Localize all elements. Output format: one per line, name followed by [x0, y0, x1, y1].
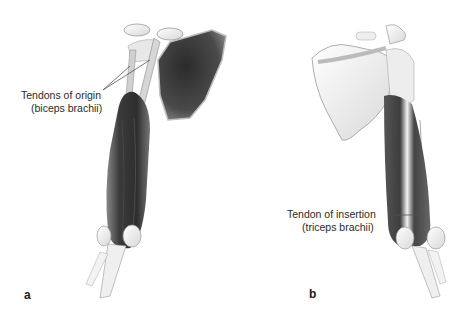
annotation-tendons-of-origin: Tendons of origin (biceps brachii): [21, 89, 102, 115]
scapula-bone: [312, 45, 394, 141]
triceps-muscle: [384, 95, 430, 246]
annotation-tendon-of-insertion: Tendon of insertion (triceps brachii): [287, 208, 376, 234]
annotation-line-1: Tendon of insertion: [287, 208, 376, 221]
annotation-line-2: (triceps brachii): [287, 221, 376, 234]
arm-illustrations: [0, 0, 472, 319]
panel-a-illustration: [86, 24, 226, 298]
annotation-line-1: Tendons of origin: [21, 89, 102, 102]
panel-letter-a: a: [24, 288, 31, 302]
anatomy-figure: Tendons of origin (biceps brachii) a Ten…: [0, 0, 472, 319]
annotation-line-2: (biceps brachii): [21, 102, 102, 115]
panel-letter-b: b: [309, 287, 316, 301]
biceps-muscle: [106, 92, 150, 248]
scapula-muscle: [158, 30, 226, 120]
panel-b-illustration: [312, 25, 446, 298]
